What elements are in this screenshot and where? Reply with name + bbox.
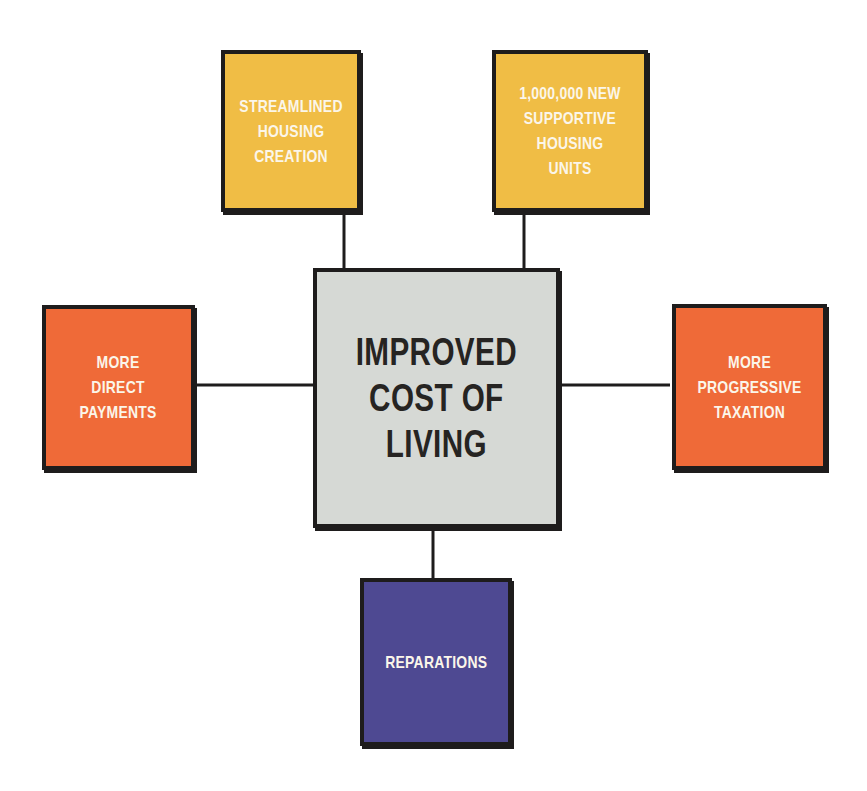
node-supportive-housing-units: 1,000,000 NEW SUPPORTIVE HOUSING UNITS [492,50,648,212]
node-reparations: REPARATIONS [360,578,512,746]
node-streamlined-housing-creation: STREAMLINED HOUSING CREATION [221,50,361,212]
node-label: MORE PROGRESSIVE TAXATION [697,350,801,425]
node-more-progressive-taxation: MORE PROGRESSIVE TAXATION [672,304,827,470]
center-node-label: IMPROVED COST OF LIVING [356,329,517,467]
node-label: REPARATIONS [385,650,487,675]
node-label: 1,000,000 NEW SUPPORTIVE HOUSING UNITS [519,81,621,181]
center-node-improved-cost-of-living: IMPROVED COST OF LIVING [313,268,560,528]
node-more-direct-payments: MORE DIRECT PAYMENTS [42,305,195,470]
node-label: STREAMLINED HOUSING CREATION [239,94,342,169]
node-label: MORE DIRECT PAYMENTS [80,350,157,425]
